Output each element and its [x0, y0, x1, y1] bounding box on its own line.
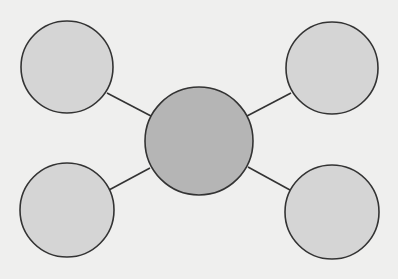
node-bottom-right	[285, 165, 379, 259]
connector-hub-top-right	[247, 93, 291, 116]
hub-node	[145, 87, 253, 195]
connector-hub-bottom-left	[109, 168, 150, 190]
hub-spoke-diagram	[0, 0, 398, 279]
connector-hub-top-left	[107, 93, 151, 116]
connector-hub-bottom-right	[248, 167, 290, 190]
node-bottom-left	[20, 163, 114, 257]
diagram-nodes	[20, 21, 379, 259]
diagram-canvas	[0, 0, 398, 279]
node-top-right	[286, 22, 378, 114]
node-top-left	[21, 21, 113, 113]
